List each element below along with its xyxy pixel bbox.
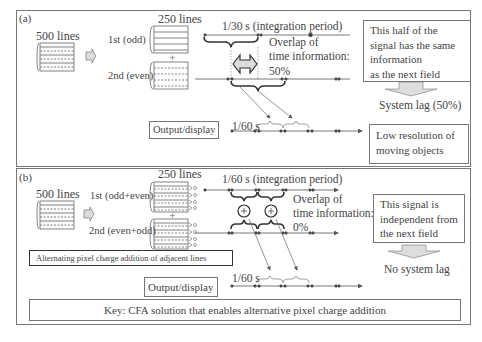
overlap-line2-b: time information: bbox=[293, 207, 374, 220]
field-lines-a: 250 lines bbox=[158, 13, 202, 27]
integration-period-b: 1/60 s (integration period) bbox=[222, 173, 342, 186]
field-lines-b: 250 lines bbox=[158, 168, 202, 182]
source-lines-a: 500 lines bbox=[36, 30, 80, 44]
down-arrow-a-icon bbox=[385, 82, 437, 96]
panel-b-label: (b) bbox=[19, 171, 32, 184]
output-display-a: Output/display bbox=[149, 121, 219, 139]
output-display-b: Output/display bbox=[144, 277, 218, 297]
svg-text:+: + bbox=[169, 53, 176, 62]
result-box-a: Low resolution of moving objects bbox=[369, 124, 469, 164]
field2-label-b: 2nd (even+odd) bbox=[89, 225, 156, 237]
note-box-b: This signal is independent from the next… bbox=[373, 194, 465, 243]
plus-circle-1-icon bbox=[238, 205, 250, 217]
no-system-lag-b: No system lag bbox=[384, 263, 450, 276]
integration-period-a: 1/30 s (integration period) bbox=[222, 20, 342, 33]
field2-label-a: 2nd (even) bbox=[108, 70, 153, 82]
overlap-line3-b: 0% bbox=[293, 221, 308, 234]
field1-label-a: 1st (odd) bbox=[108, 34, 146, 46]
method-box-b: Alternating pixel charge addition of adj… bbox=[29, 250, 233, 266]
overlap-line2-a: time information: bbox=[269, 50, 350, 63]
source-frame-b-icon bbox=[37, 201, 74, 229]
key-box-b: Key: CFA solution that enables alternati… bbox=[29, 299, 461, 321]
field1-b-icon bbox=[150, 182, 188, 212]
overlap-line1-b: Overlap of bbox=[293, 193, 343, 206]
down-arrow-b-icon bbox=[388, 245, 440, 258]
note-box-a: This half of the signal has the same inf… bbox=[363, 20, 471, 82]
charge-add-markers-b2 bbox=[189, 223, 197, 247]
field1-label-b: 1st (odd+even) bbox=[90, 190, 153, 202]
panel-a-label: (a) bbox=[19, 12, 31, 25]
arrow-right-a-icon bbox=[86, 49, 96, 63]
source-frame-a-icon bbox=[37, 43, 74, 71]
plus-circle-2-icon bbox=[265, 205, 277, 217]
charge-add-markers-b1 bbox=[189, 186, 197, 210]
field1-a-icon bbox=[150, 26, 188, 53]
output-period-a: 1/60 s bbox=[232, 120, 260, 133]
arrow-right-b-icon bbox=[84, 207, 94, 221]
system-lag-a: System lag (50%) bbox=[379, 99, 461, 112]
field2-a-icon bbox=[150, 62, 188, 89]
output-period-b: 1/60 s bbox=[232, 272, 260, 285]
timeline-field2-b bbox=[195, 232, 338, 234]
timeline-field1-b bbox=[204, 189, 338, 191]
source-lines-b: 500 lines bbox=[36, 188, 80, 202]
overlap-double-arrow-icon bbox=[233, 55, 257, 73]
overlap-line3-a: 50% bbox=[269, 65, 290, 78]
overlap-line1-a: Overlap of bbox=[269, 36, 319, 49]
